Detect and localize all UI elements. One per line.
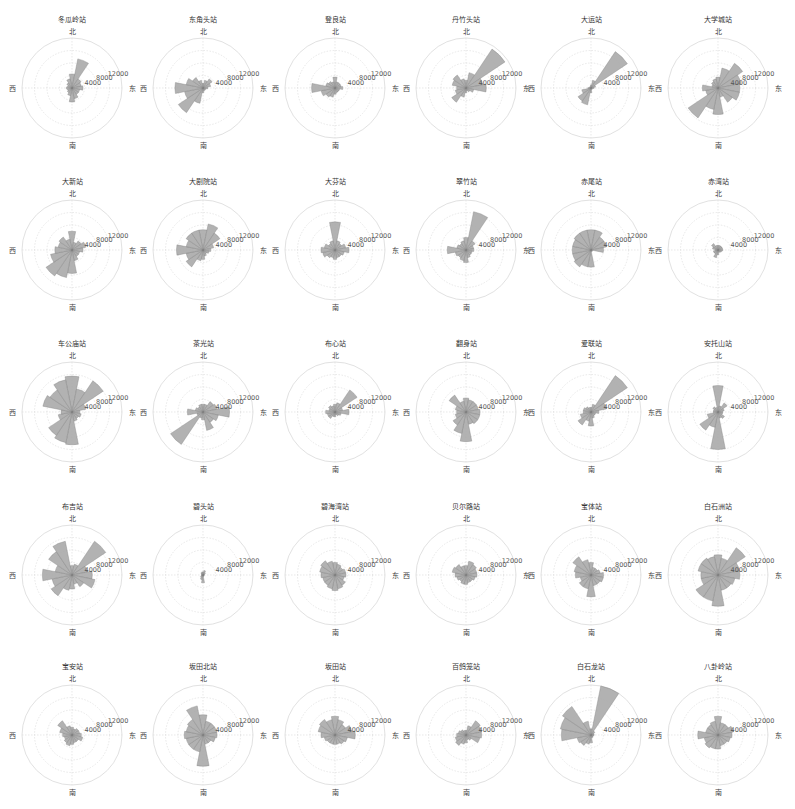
radial-tick-label: 12000 <box>627 394 648 402</box>
rose-chart-panel: 爱联站4000800012000北南东西 <box>525 332 657 494</box>
west-label: 西 <box>655 409 662 417</box>
west-label: 西 <box>403 247 410 255</box>
rose-chart-panel: 贝尔路站4000800012000北南东西 <box>400 495 532 657</box>
west-label: 西 <box>655 247 662 255</box>
polar-plot: 4000800012000北南东西 <box>6 170 138 332</box>
north-label: 北 <box>463 28 470 36</box>
rose-chart-panel: 大学城站4000800012000北南东西 <box>652 8 784 170</box>
polar-plot: 4000800012000北南东西 <box>269 332 401 494</box>
rose-chart-panel: 宝安站4000800012000北南东西 <box>6 655 138 809</box>
north-label: 北 <box>463 675 470 683</box>
south-label: 南 <box>588 465 595 474</box>
radial-tick-label: 12000 <box>502 717 523 725</box>
rose-chart-panel: 布心站4000800012000北南东西 <box>269 332 401 494</box>
rose-chart-panel: 八卦岭站4000800012000北南东西 <box>652 655 784 809</box>
east-label: 东 <box>129 408 136 417</box>
radial-tick-label: 12000 <box>108 70 129 78</box>
north-label: 北 <box>69 28 76 36</box>
west-label: 西 <box>528 572 535 580</box>
west-label: 西 <box>272 572 279 580</box>
rose-chart-panel: 宝体站4000800012000北南东西 <box>525 495 657 657</box>
west-label: 西 <box>655 732 662 740</box>
south-label: 南 <box>332 788 339 797</box>
south-label: 南 <box>588 141 595 150</box>
west-label: 西 <box>528 732 535 740</box>
north-label: 北 <box>715 352 722 360</box>
west-label: 西 <box>140 732 147 740</box>
polar-plot: 4000800012000北南东西 <box>6 495 138 657</box>
polar-plot: 4000800012000北南东西 <box>525 495 657 657</box>
polar-plot: 4000800012000北南东西 <box>652 495 784 657</box>
polar-plot: 4000800012000北南东西 <box>400 8 532 170</box>
polar-plot: 4000800012000北南东西 <box>652 655 784 809</box>
west-label: 西 <box>403 409 410 417</box>
north-label: 北 <box>69 352 76 360</box>
polar-plot: 4000800012000北南东西 <box>652 8 784 170</box>
polar-plot: 4000800012000北南东西 <box>525 170 657 332</box>
radial-tick-label: 12000 <box>502 232 523 240</box>
polar-plot: 4000800012000北南东西 <box>137 8 269 170</box>
west-label: 西 <box>9 85 16 93</box>
south-label: 南 <box>588 303 595 312</box>
west-label: 西 <box>528 247 535 255</box>
east-label: 东 <box>392 731 399 740</box>
rose-chart-panel: 白石洲站4000800012000北南东西 <box>652 495 784 657</box>
rose-chart-panel: 赤湾站4000800012000北南东西 <box>652 170 784 332</box>
rose-chart-panel: 百鸽笼站4000800012000北南东西 <box>400 655 532 809</box>
west-label: 西 <box>140 85 147 93</box>
radial-tick-label: 12000 <box>502 394 523 402</box>
east-label: 东 <box>392 571 399 580</box>
north-label: 北 <box>588 515 595 523</box>
north-label: 北 <box>588 675 595 683</box>
south-label: 南 <box>463 628 470 637</box>
south-label: 南 <box>69 628 76 637</box>
south-label: 南 <box>715 465 722 474</box>
radial-tick-label: 12000 <box>108 557 129 565</box>
west-label: 西 <box>272 247 279 255</box>
south-label: 南 <box>588 788 595 797</box>
north-label: 北 <box>715 28 722 36</box>
north-label: 北 <box>463 190 470 198</box>
east-label: 东 <box>260 84 267 93</box>
north-label: 北 <box>69 675 76 683</box>
north-label: 北 <box>463 352 470 360</box>
south-label: 南 <box>69 303 76 312</box>
rose-chart-panel: 坂田北站4000800012000北南东西 <box>137 655 269 809</box>
rose-chart-panel: 茶光站4000800012000北南东西 <box>137 332 269 494</box>
south-label: 南 <box>463 465 470 474</box>
east-label: 东 <box>129 571 136 580</box>
north-label: 北 <box>332 675 339 683</box>
south-label: 南 <box>200 628 207 637</box>
rose-chart-panel: 碧海湾站4000800012000北南东西 <box>269 495 401 657</box>
north-label: 北 <box>332 515 339 523</box>
north-label: 北 <box>588 352 595 360</box>
east-label: 东 <box>129 84 136 93</box>
east-label: 东 <box>260 246 267 255</box>
radial-tick-label: 12000 <box>502 70 523 78</box>
east-label: 东 <box>775 571 782 580</box>
rose-chart-panel: 布吉站4000800012000北南东西 <box>6 495 138 657</box>
west-label: 西 <box>403 732 410 740</box>
west-label: 西 <box>528 409 535 417</box>
east-label: 东 <box>775 408 782 417</box>
rose-chart-grid: 冬瓜岭站4000800012000北南东西东角头站4000800012000北南… <box>0 0 795 809</box>
west-label: 西 <box>9 732 16 740</box>
west-label: 西 <box>9 247 16 255</box>
east-label: 东 <box>775 246 782 255</box>
south-label: 南 <box>715 788 722 797</box>
east-label: 东 <box>392 246 399 255</box>
west-label: 西 <box>655 572 662 580</box>
radial-tick-label: 12000 <box>371 232 392 240</box>
polar-plot: 4000800012000北南东西 <box>137 495 269 657</box>
rose-chart-panel: 大运站4000800012000北南东西 <box>525 8 657 170</box>
radial-tick-label: 12000 <box>239 70 260 78</box>
polar-plot: 4000800012000北南东西 <box>269 170 401 332</box>
radial-tick-label: 12000 <box>371 394 392 402</box>
radial-tick-label: 12000 <box>371 717 392 725</box>
polar-plot: 4000800012000北南东西 <box>652 170 784 332</box>
south-label: 南 <box>200 465 207 474</box>
rose-chart-panel: 碧头站4000800012000北南东西 <box>137 495 269 657</box>
south-label: 南 <box>69 141 76 150</box>
rose-chart-panel: 东角头站4000800012000北南东西 <box>137 8 269 170</box>
radial-tick-label: 12000 <box>627 70 648 78</box>
